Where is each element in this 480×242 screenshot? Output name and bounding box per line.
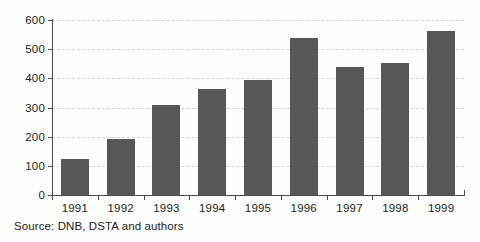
x-tick-mark-1995 <box>235 195 236 200</box>
bar-1998 <box>381 63 409 195</box>
x-tick-label-1999: 1999 <box>428 202 454 214</box>
x-tick-mark-1996 <box>281 195 282 200</box>
x-tick-mark-1997 <box>327 195 328 200</box>
x-tick-label-1995: 1995 <box>245 202 271 214</box>
x-axis-line <box>52 195 465 196</box>
y-tick-label-300: 300 <box>25 102 45 114</box>
bar-1995 <box>244 80 272 195</box>
x-tick-label-1996: 1996 <box>291 202 317 214</box>
bar-1997 <box>336 67 364 195</box>
bar-1994 <box>198 89 226 195</box>
x-tick-label-1997: 1997 <box>336 202 362 214</box>
source-note: Source: DNB, DSTA and authors <box>14 220 184 232</box>
x-tick-mark-1998 <box>372 195 373 200</box>
bar-1991 <box>61 159 89 195</box>
x-tick-label-1998: 1998 <box>382 202 408 214</box>
x-tick-mark-1999 <box>418 195 419 200</box>
x-tick-mark-1992 <box>98 195 99 200</box>
y-tick-label-200: 200 <box>25 131 45 143</box>
plot-area: 0100200300400500600 <box>52 20 464 195</box>
gridline-y-500 <box>52 49 464 50</box>
y-tick-label-400: 400 <box>25 72 45 84</box>
x-tick-label-1993: 1993 <box>153 202 179 214</box>
x-axis-end-tick <box>464 190 465 196</box>
bar-1993 <box>152 105 180 195</box>
x-tick-label-1991: 1991 <box>62 202 88 214</box>
x-tick-mark-1993 <box>144 195 145 200</box>
x-tick-label-1994: 1994 <box>199 202 225 214</box>
x-tick-label-1992: 1992 <box>107 202 133 214</box>
x-tick-mark-1991 <box>52 195 53 200</box>
y-tick-label-0: 0 <box>38 189 45 201</box>
y-axis-line <box>52 19 53 196</box>
y-tick-label-500: 500 <box>25 43 45 55</box>
bar-1996 <box>290 38 318 196</box>
chart-figure: 0100200300400500600 Source: DNB, DSTA an… <box>0 0 480 242</box>
gridline-y-600 <box>52 20 464 21</box>
y-tick-label-100: 100 <box>25 160 45 172</box>
bar-1999 <box>427 31 455 195</box>
bar-1992 <box>107 139 135 195</box>
x-tick-mark-1994 <box>189 195 190 200</box>
y-tick-label-600: 600 <box>25 14 45 26</box>
